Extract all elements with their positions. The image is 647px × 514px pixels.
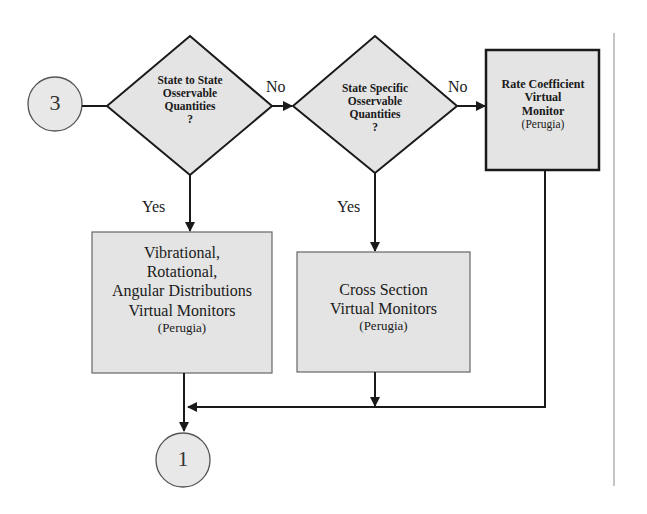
process-line: Angular Distributions: [92, 281, 272, 300]
process-line: Cross Section: [297, 280, 470, 299]
process-rate-coefficient-label: Rate Coefficient Virtual Monitor (Perugi…: [484, 78, 602, 131]
process-sub: (Perugia): [92, 320, 272, 336]
decision-line: State to State: [130, 74, 250, 87]
decision-line: Quantities: [315, 108, 435, 121]
connector-end-label: 1: [156, 446, 210, 472]
process-line: Monitor: [484, 105, 602, 118]
decision-line: ?: [130, 113, 250, 126]
decision-line: ?: [315, 121, 435, 134]
connector-start-label: 3: [28, 90, 82, 116]
process-line: Virtual Monitors: [297, 299, 470, 318]
decision-line: Osservable: [130, 87, 250, 100]
edge-label-no-2: No: [448, 78, 468, 96]
process-sub: (Perugia): [484, 118, 602, 131]
process-cross-section-label: Cross Section Virtual Monitors (Perugia): [297, 280, 470, 334]
decision-state-specific-label: State Specific Osservable Quantities ?: [315, 82, 435, 134]
process-sub: (Perugia): [297, 318, 470, 334]
process-line: Virtual: [484, 91, 602, 104]
process-line: Virtual Monitors: [92, 301, 272, 320]
process-vibrational-label: Vibrational, Rotational, Angular Distrib…: [92, 243, 272, 335]
edge-label-yes-1: Yes: [142, 198, 165, 216]
process-line: Rate Coefficient: [484, 78, 602, 91]
edge-label-no-1: No: [266, 78, 286, 96]
decision-line: State Specific: [315, 82, 435, 95]
decision-line: Quantities: [130, 100, 250, 113]
process-line: Rotational,: [92, 262, 272, 281]
decision-line: Osservable: [315, 95, 435, 108]
process-line: Vibrational,: [92, 243, 272, 262]
edge-label-yes-2: Yes: [337, 198, 360, 216]
decision-state-to-state-label: State to State Osservable Quantities ?: [130, 74, 250, 126]
